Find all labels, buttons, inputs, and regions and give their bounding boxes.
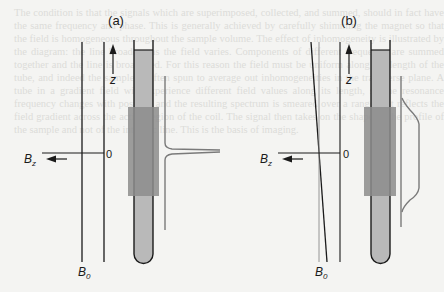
spectrum-broad-line-b xyxy=(401,76,419,227)
z-axis-label-a: z xyxy=(109,73,116,87)
panel-b-label: (b) xyxy=(341,13,357,28)
panel-b: (b) z 0 Bz B0 xyxy=(260,13,419,281)
spectrum-sharp-peak-a xyxy=(165,76,220,230)
z-axis-arrow-b xyxy=(346,44,353,74)
coil-region-a xyxy=(128,107,159,196)
z-axis-arrow-a xyxy=(110,44,117,74)
bz-label-b: Bz xyxy=(260,152,272,168)
b0-label-a: B0 xyxy=(78,265,91,281)
b0-label-b: B0 xyxy=(315,265,328,281)
bz-arrow-b xyxy=(282,156,303,163)
bz-label-a: Bz xyxy=(24,152,36,168)
bz-arrow-a xyxy=(46,156,67,163)
panel-a-label: (a) xyxy=(108,13,124,28)
zero-label-b: 0 xyxy=(343,148,349,160)
z-axis-label-b: z xyxy=(345,73,352,87)
coil-region-b xyxy=(364,107,396,196)
zero-label-a: 0 xyxy=(106,148,112,160)
panel-a: (a) z 0 Bz B0 xyxy=(24,13,220,281)
